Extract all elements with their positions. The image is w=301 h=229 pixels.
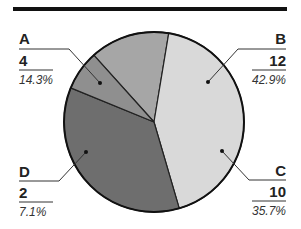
label-b-name: B bbox=[275, 30, 286, 47]
pie-chart bbox=[0, 0, 301, 229]
label-a-name: A bbox=[19, 30, 30, 47]
label-b-value: 12 bbox=[269, 52, 286, 69]
label-b-pct: 42.9% bbox=[252, 73, 286, 87]
label-d-value: 2 bbox=[19, 184, 27, 201]
label-a-pct: 14.3% bbox=[19, 73, 53, 87]
label-a-value: 4 bbox=[19, 52, 27, 69]
label-c-name: C bbox=[275, 162, 286, 179]
label-d-pct: 7.1% bbox=[19, 205, 46, 219]
label-c-pct: 35.7% bbox=[252, 204, 286, 218]
label-c-value: 10 bbox=[269, 183, 286, 200]
label-d-name: D bbox=[19, 163, 30, 180]
